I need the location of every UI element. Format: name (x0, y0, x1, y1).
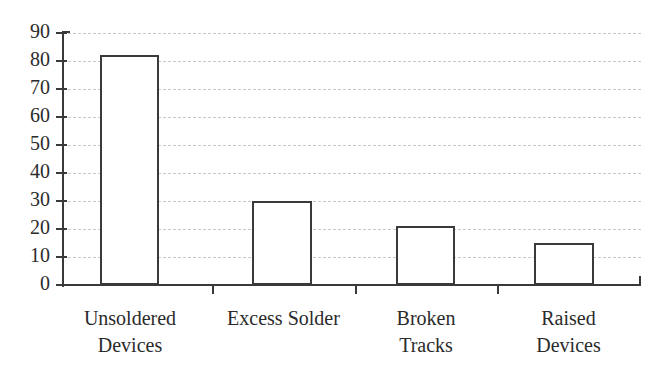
y-tick-label-0: 0 (0, 272, 50, 295)
y-tick-80 (56, 60, 67, 62)
y-tick-label-90: 90 (0, 20, 50, 43)
bar-broken-tracks (396, 226, 455, 285)
category-label-line: Raised (497, 305, 640, 332)
category-label-line: Excess Solder (212, 305, 355, 332)
y-tick-label-30: 30 (0, 188, 50, 211)
y-tick-50 (56, 144, 67, 146)
y-tick-70 (56, 88, 67, 90)
y-tick-label-10: 10 (0, 244, 50, 267)
category-label-line: Tracks (355, 332, 497, 359)
bar-unsoldered-devices (100, 55, 159, 285)
y-tick-label-60: 60 (0, 104, 50, 127)
y-tick-0 (56, 284, 67, 286)
category-label-unsoldered-devices: Unsoldered Devices (60, 305, 200, 359)
category-label-line: Unsoldered (60, 305, 200, 332)
x-tick-separator-2 (355, 285, 357, 294)
x-tick-separator-1 (212, 285, 214, 294)
bar-excess-solder (252, 201, 312, 285)
category-label-broken-tracks: Broken Tracks (355, 305, 497, 359)
y-tick-30 (56, 200, 67, 202)
x-tick-separator-3 (497, 285, 499, 294)
y-tick-label-50: 50 (0, 132, 50, 155)
y-tick-60 (56, 116, 67, 118)
y-tick-label-40: 40 (0, 160, 50, 183)
category-label-line: Devices (60, 332, 200, 359)
category-label-raised-devices: Raised Devices (497, 305, 640, 359)
y-tick-90 (56, 32, 67, 34)
x-axis-right-cap (639, 276, 641, 285)
y-tick-label-70: 70 (0, 76, 50, 99)
y-tick-20 (56, 228, 67, 230)
y-tick-label-20: 20 (0, 216, 50, 239)
bar-chart: 90 80 70 60 50 40 30 20 10 0 Unsoldered … (0, 0, 661, 380)
category-label-line: Broken (355, 305, 497, 332)
y-tick-40 (56, 172, 67, 174)
category-label-line: Devices (497, 332, 640, 359)
y-tick-label-80: 80 (0, 48, 50, 71)
bar-raised-devices (534, 243, 594, 285)
y-axis-line (62, 31, 64, 287)
y-tick-10 (56, 256, 67, 258)
gridline-90 (63, 33, 641, 34)
category-label-excess-solder: Excess Solder (212, 305, 355, 332)
